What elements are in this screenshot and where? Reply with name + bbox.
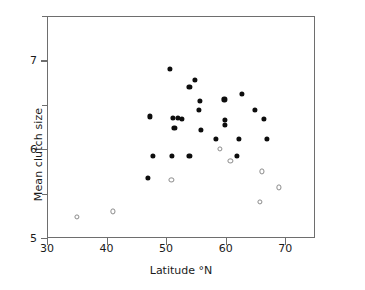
data-point-open bbox=[257, 199, 262, 204]
data-point-open bbox=[110, 209, 115, 214]
data-point-open bbox=[276, 185, 281, 190]
y-tick bbox=[42, 194, 48, 195]
x-tick-label: 50 bbox=[159, 242, 173, 255]
axis-spine-left bbox=[47, 16, 48, 238]
y-tick: 7 bbox=[41, 60, 48, 61]
data-point-open bbox=[169, 178, 174, 183]
data-point-filled bbox=[236, 136, 241, 141]
data-point-filled bbox=[234, 154, 239, 159]
x-tick-label: 30 bbox=[40, 242, 54, 255]
data-point-filled bbox=[239, 92, 244, 97]
data-point-filled bbox=[179, 116, 184, 121]
x-axis-label: Latitude °N bbox=[47, 264, 315, 277]
data-point-filled bbox=[261, 116, 266, 121]
data-point-filled bbox=[172, 125, 177, 130]
x-tick-label: 70 bbox=[278, 242, 292, 255]
data-point-open bbox=[228, 158, 233, 163]
data-point-filled bbox=[252, 108, 257, 113]
axis-spine-top bbox=[47, 16, 315, 17]
data-point-filled bbox=[146, 175, 151, 180]
data-point-filled bbox=[187, 154, 192, 159]
data-point-filled bbox=[222, 97, 227, 102]
y-tick-label: 6 bbox=[30, 143, 37, 156]
y-tick-label: 7 bbox=[30, 54, 37, 67]
data-point-filled bbox=[187, 84, 192, 89]
data-point-filled bbox=[150, 154, 155, 159]
x-tick-label: 40 bbox=[100, 242, 114, 255]
scatter-chart-figure: Mean clutch size 567 3040506070 Latitude… bbox=[0, 0, 365, 290]
data-point-filled bbox=[196, 108, 201, 113]
plot-area: 567 3040506070 bbox=[47, 16, 315, 238]
data-point-filled bbox=[222, 123, 227, 128]
y-tick bbox=[42, 105, 48, 106]
axis-spine-bottom bbox=[47, 237, 315, 238]
y-tick bbox=[42, 16, 48, 17]
y-tick-label: 5 bbox=[30, 232, 37, 245]
data-point-open bbox=[74, 214, 79, 219]
data-point-filled bbox=[214, 136, 219, 141]
data-point-open bbox=[217, 147, 222, 152]
data-point-filled bbox=[197, 99, 202, 104]
axis-spine-right bbox=[314, 16, 315, 238]
y-tick: 6 bbox=[41, 149, 48, 150]
data-point-filled bbox=[168, 67, 173, 72]
data-point-filled bbox=[193, 77, 198, 82]
data-point-filled bbox=[198, 127, 203, 132]
data-point-filled bbox=[147, 114, 152, 119]
data-point-open bbox=[259, 169, 264, 174]
data-point-filled bbox=[169, 154, 174, 159]
x-tick-label: 60 bbox=[219, 242, 233, 255]
data-point-filled bbox=[264, 136, 269, 141]
